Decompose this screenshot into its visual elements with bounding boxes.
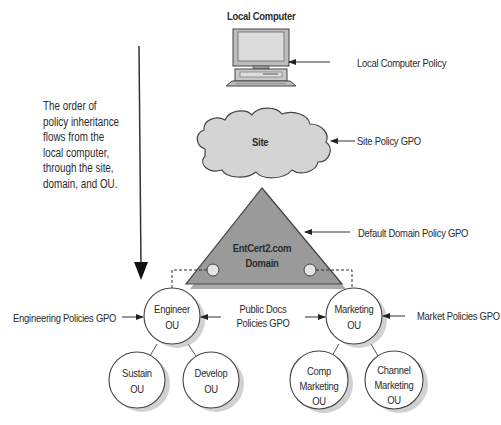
marketing-ou-line2: OU — [329, 318, 378, 332]
channel-marketing-ou-line2: Marketing — [369, 378, 418, 392]
engineer-ou-line1: Engineer — [147, 302, 196, 316]
domain-type-label: Domain — [229, 256, 295, 270]
comp-marketing-ou-line1: Comp — [294, 364, 343, 378]
default-domain-policy-label: Default Domain Policy GPO — [358, 226, 468, 240]
site-policy-label: Site Policy GPO — [357, 134, 421, 148]
develop-ou-line1: Develop — [186, 366, 235, 380]
public-docs-label-line1: Public Docs — [230, 302, 296, 316]
domain-name-label: EntCert2.com — [229, 241, 295, 255]
marketing-ou-line1: Marketing — [329, 302, 378, 316]
note-line: flows from the — [43, 130, 119, 146]
comp-marketing-ou-line3: OU — [294, 394, 343, 408]
local-computer-policy-label: Local Computer Policy — [357, 56, 446, 70]
note-line: local computer, — [43, 146, 119, 162]
site-label: Site — [252, 135, 268, 149]
develop-ou-line2: OU — [186, 382, 235, 396]
domain-triangle — [186, 188, 346, 289]
channel-marketing-ou-line1: Channel — [369, 363, 418, 377]
computer-icon — [226, 29, 296, 86]
note-line: policy inheritance — [43, 115, 119, 131]
channel-marketing-ou-line3: OU — [369, 393, 418, 407]
local-computer-title: Local Computer — [227, 9, 295, 23]
note-line: domain, and OU. — [43, 177, 119, 193]
note-line: The order of — [43, 99, 119, 115]
sustain-ou-line1: Sustain — [112, 366, 161, 380]
sustain-ou-line2: OU — [112, 382, 161, 396]
engineer-ou-line2: OU — [147, 318, 196, 332]
comp-marketing-ou-line2: Marketing — [294, 379, 343, 393]
note-line: through the site, — [43, 161, 119, 177]
inheritance-note: The order of policy inheritance flows fr… — [43, 99, 119, 192]
public-docs-label-line2: Policies GPO — [230, 316, 296, 330]
engineering-policies-label: Engineering Policies GPO — [13, 311, 116, 325]
market-policies-label: Market Policies GPO — [417, 309, 500, 323]
inheritance-flow-arrow — [134, 46, 148, 280]
